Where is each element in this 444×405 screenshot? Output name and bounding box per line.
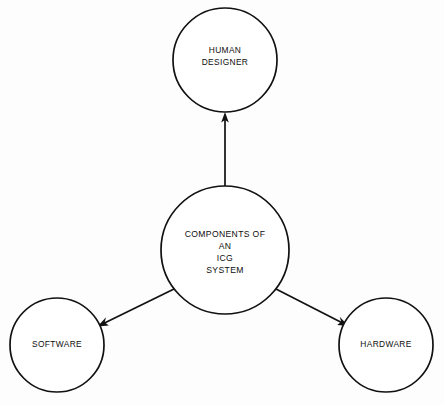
diagram-root: HUMAN DESIGNER COMPONENTS OF AN ICG SYST…	[0, 0, 444, 405]
diagram-canvas: HUMAN DESIGNER COMPONENTS OF AN ICG SYST…	[0, 0, 444, 405]
node-components-hub[interactable]: COMPONENTS OF AN ICG SYSTEM	[161, 186, 289, 314]
node-hardware-label: HARDWARE	[360, 339, 411, 349]
node-human-designer[interactable]: HUMAN DESIGNER	[173, 8, 277, 112]
node-components-hub-label-line4: SYSTEM	[206, 265, 243, 275]
edge-hub-to-human-designer	[221, 112, 229, 187]
node-human-designer-label-line2: DESIGNER	[202, 57, 249, 67]
node-components-hub-label-line3: ICG	[217, 253, 233, 263]
node-hardware[interactable]: HARDWARE	[339, 298, 433, 392]
node-software[interactable]: SOFTWARE	[10, 298, 104, 392]
edge-line-hub-to-hardware	[276, 289, 343, 323]
edge-line-hub-to-software	[104, 289, 175, 324]
edge-hub-to-hardware	[276, 289, 349, 326]
node-software-label: SOFTWARE	[32, 339, 82, 349]
edge-hub-to-software	[98, 289, 175, 326]
node-components-hub-label-line1: COMPONENTS OF	[185, 229, 265, 239]
node-human-designer-label-line1: HUMAN	[209, 45, 241, 55]
node-components-hub-label-line2: AN	[219, 241, 232, 251]
